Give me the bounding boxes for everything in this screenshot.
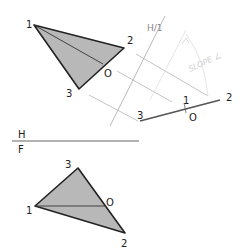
label-front-1: 1: [26, 205, 32, 216]
label-front-3: 3: [65, 159, 71, 170]
label-fold-f: F: [18, 144, 24, 155]
label-edge-3: 3: [137, 110, 143, 121]
label-top-o: O: [104, 68, 112, 79]
label-top-3: 3: [66, 88, 72, 99]
label-front-2: 2: [121, 238, 127, 249]
top-view-triangle: [34, 25, 124, 89]
label-top-2: 2: [127, 35, 133, 46]
edge-view-line: [140, 100, 220, 121]
diagram-canvas: 1 2 3 O H/1 SLOPE ∠ 3 1 O 2 H F 3 1 O 2: [0, 0, 248, 252]
label-edge-o: O: [189, 112, 197, 123]
label-edge-1: 1: [183, 95, 189, 106]
label-edge-2: 2: [226, 92, 232, 103]
label-front-o: O: [106, 197, 114, 208]
label-fold-h: H: [18, 129, 26, 140]
label-top-1: 1: [26, 19, 32, 30]
slope-angle-annotation: SLOPE ∠: [187, 51, 223, 74]
label-fold-h1: H/1: [147, 23, 163, 33]
